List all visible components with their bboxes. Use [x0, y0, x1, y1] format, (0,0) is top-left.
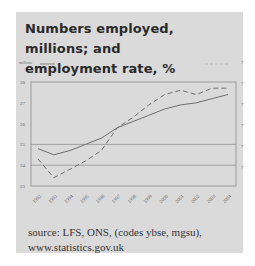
- left-axis-tick: 26: [20, 122, 26, 127]
- right-axis-tick: 7: [241, 102, 244, 107]
- x-axis-tick: 1994: [63, 193, 74, 204]
- x-axis-tick: 1992: [32, 193, 43, 204]
- x-axis-tick: 2003: [206, 193, 217, 204]
- x-axis-tick: 1995: [79, 193, 90, 204]
- x-axis-tick: 2001: [174, 193, 185, 204]
- right-axis-tick: 7: [241, 165, 244, 170]
- right-axis-tick: 7: [241, 123, 244, 128]
- left-axis-tick: 24: [20, 163, 26, 168]
- x-axis-tick: 2000: [158, 193, 169, 204]
- left-axis-tick: 25: [20, 142, 26, 147]
- plot-frame: [31, 82, 236, 186]
- x-axis-tick: 1999: [142, 193, 153, 204]
- x-axis-tick: 2004: [222, 193, 233, 204]
- line-chart: 2827262524237777771992199319941995199619…: [0, 0, 255, 266]
- right-axis-tick: 7: [241, 60, 244, 65]
- left-axis-tick: 27: [20, 101, 26, 106]
- x-axis-tick: 1996: [95, 193, 106, 204]
- x-axis-tick: 2002: [190, 193, 201, 204]
- right-axis-tick: 7: [241, 144, 244, 149]
- left-axis-tick: 28: [20, 80, 26, 85]
- numbers-employed-line: [38, 95, 228, 155]
- left-axis-tick: 23: [20, 184, 26, 189]
- x-axis-tick: 1998: [127, 193, 138, 204]
- x-axis-tick: 1993: [47, 193, 58, 204]
- x-axis-tick: 1997: [111, 193, 122, 204]
- right-axis-tick: 7: [241, 81, 244, 86]
